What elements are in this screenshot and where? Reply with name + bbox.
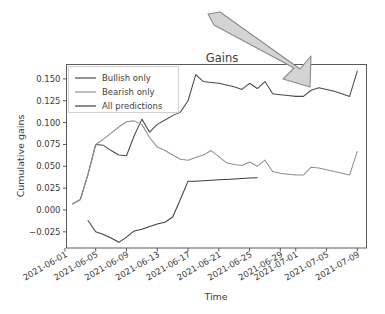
y-tick-label: 0.125: [36, 96, 60, 106]
y-tick-label: −0.025: [29, 227, 60, 237]
legend-label-0: Bullish only: [102, 73, 151, 83]
y-tick-label: 0.150: [36, 74, 60, 84]
legend-label-1: Bearish only: [102, 87, 155, 97]
gains-line-chart: −0.0250.0000.0250.0500.0750.1000.1250.15…: [0, 0, 385, 314]
chart-legend: Bullish onlyBearish onlyAll predictions: [69, 67, 179, 113]
y-axis-title: Cumulative gains: [15, 115, 26, 198]
y-tick-label: 0.050: [36, 161, 60, 171]
x-axis-title: Time: [203, 291, 227, 302]
legend-label-2: All predictions: [102, 101, 163, 111]
y-tick-label: 0.100: [36, 118, 60, 128]
y-tick-label: 0.025: [36, 183, 60, 193]
y-tick-label: 0.000: [36, 205, 60, 215]
chart-screenshot: −0.0250.0000.0250.0500.0750.1000.1250.15…: [0, 0, 385, 314]
chart-title: Gains: [206, 51, 238, 65]
y-tick-label: 0.075: [36, 139, 60, 149]
